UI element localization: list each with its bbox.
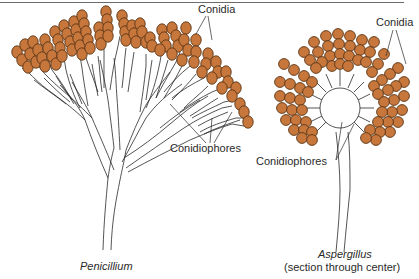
penicillium-conidiophores-label: Conidiophores [170, 142, 241, 154]
penicillium-caption: Penicillium [80, 260, 133, 272]
aspergillus-subcaption: (section through center) [284, 261, 400, 273]
penicillium-conidia-label: Conidia [198, 3, 235, 15]
fungi-illustration [0, 0, 419, 279]
aspergillus-conidiophores-label: Conidiophores [256, 155, 327, 167]
aspergillus-conidia-label: Conidia [376, 16, 413, 28]
aspergillus-caption: Aspergillus [318, 248, 372, 260]
